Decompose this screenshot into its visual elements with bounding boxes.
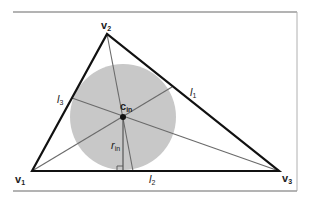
incircle-diagram: v1 v2 v3 cin rin l1 l2 l3 — [0, 0, 309, 206]
label-v3: v3 — [282, 172, 292, 185]
label-l3: l3 — [57, 93, 63, 106]
label-l1: l1 — [190, 86, 196, 99]
incenter-point — [120, 114, 126, 120]
label-l2: l2 — [149, 173, 155, 186]
label-v1: v1 — [15, 173, 25, 186]
label-v2: v2 — [101, 19, 111, 32]
